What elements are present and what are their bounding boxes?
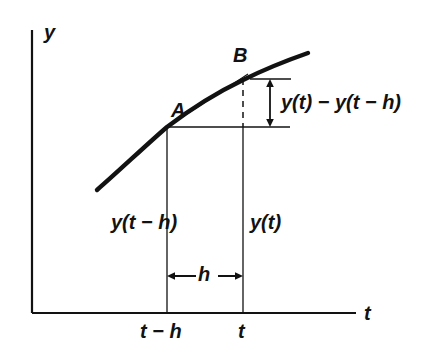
x-axis-label: t — [364, 303, 371, 323]
y-axis-label: y — [44, 22, 55, 42]
ordinate-label-right: y(t) — [250, 212, 281, 232]
point-label-b: B — [233, 45, 247, 65]
tick-label-t: t — [238, 321, 245, 341]
figure-background — [0, 0, 437, 346]
delay-difference-diagram — [0, 0, 437, 346]
tick-label-t-minus-h: t − h — [140, 321, 182, 341]
ordinate-label-left: y(t − h) — [111, 212, 177, 232]
difference-label: y(t) − y(t − h) — [281, 92, 401, 112]
step-size-label: h — [198, 264, 210, 284]
point-label-a: A — [171, 100, 185, 120]
